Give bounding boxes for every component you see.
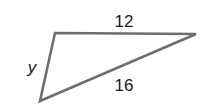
side-label-top: 12 [115,12,134,31]
side-label-left: y [27,58,38,77]
side-label-hypotenuse: 16 [115,76,134,95]
triangle-diagram: 12 16 y [0,0,210,112]
